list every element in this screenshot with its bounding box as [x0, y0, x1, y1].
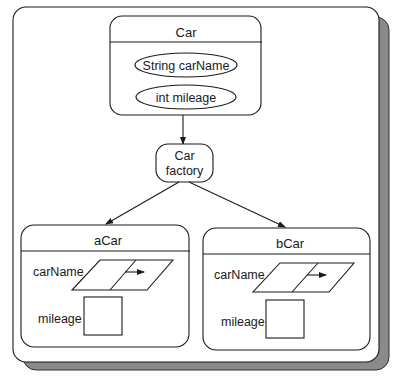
field-label-mileage: mileage — [38, 312, 82, 326]
car-class-box: Car String carName int mileage — [110, 16, 262, 115]
attribute-mileage: int mileage — [136, 85, 236, 109]
attribute-label: int mileage — [156, 91, 216, 105]
value-cell — [84, 297, 122, 335]
attribute-carName: String carName — [135, 53, 237, 77]
instance-title: aCar — [94, 233, 123, 248]
factory-label-line2: factory — [166, 164, 204, 178]
instance-aCar: aCar carName mileage — [21, 225, 190, 347]
value-cell — [266, 300, 304, 338]
diagram-canvas: Car String carName int mileage Car facto… — [0, 0, 401, 379]
field-label-mileage: mileage — [221, 315, 265, 329]
instance-title: bCar — [276, 236, 305, 251]
field-label-carName: carName — [214, 268, 265, 282]
class-title: Car — [176, 25, 198, 40]
car-factory-node: Car factory — [156, 144, 213, 182]
instance-bCar: bCar carName mileage — [203, 228, 370, 350]
factory-label-line1: Car — [174, 149, 194, 163]
field-label-carName: carName — [33, 265, 84, 279]
attribute-label: String carName — [143, 59, 230, 73]
